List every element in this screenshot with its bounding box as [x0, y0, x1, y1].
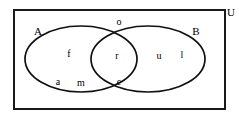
element-label-e: e — [117, 76, 122, 87]
universe-label: U — [227, 6, 235, 18]
set-a-label: A — [34, 25, 42, 37]
element-label-m: m — [77, 77, 85, 88]
element-label-u: u — [157, 50, 162, 61]
element-label-o: o — [117, 16, 122, 27]
set-b-label: B — [192, 25, 199, 37]
element-label-l: l — [181, 49, 184, 60]
venn-diagram-canvas: U A B f a m o r e u l — [0, 0, 239, 118]
element-label-a: a — [56, 76, 61, 87]
venn-diagram-figure: U A B f a m o r e u l — [0, 0, 239, 118]
